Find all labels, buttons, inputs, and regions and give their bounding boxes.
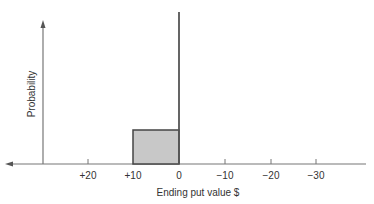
tick-label: 0 [176, 170, 182, 181]
tick-label: −30 [308, 170, 325, 181]
tick-label: +10 [125, 170, 142, 181]
tick-label: −20 [263, 170, 280, 181]
y-axis-title: Probability [26, 71, 37, 118]
x-ticks [88, 159, 316, 164]
x-axis-arrow-icon [5, 162, 13, 167]
y-axis-arrow-icon [41, 20, 46, 28]
probability-bar [133, 130, 179, 164]
chart: +20 +10 0 −10 −20 −30 Ending put value $… [0, 0, 374, 204]
tick-label: +20 [80, 170, 97, 181]
x-axis-title: Ending put value $ [157, 187, 240, 198]
tick-label: −10 [217, 170, 234, 181]
